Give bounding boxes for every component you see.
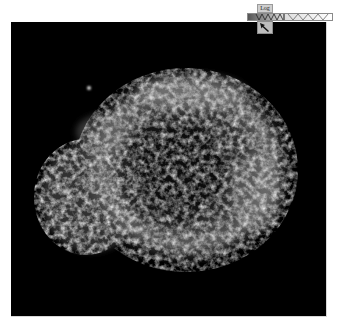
scale-mode-button[interactable]: Log bbox=[257, 4, 273, 13]
colorbar[interactable] bbox=[247, 13, 333, 21]
pointer-tool-button[interactable] bbox=[257, 21, 273, 34]
image-viewer[interactable] bbox=[11, 22, 327, 317]
supernova-remnant-image bbox=[11, 22, 326, 316]
pointer-arrow-icon bbox=[258, 22, 272, 33]
colorbar-gradient bbox=[248, 14, 332, 20]
